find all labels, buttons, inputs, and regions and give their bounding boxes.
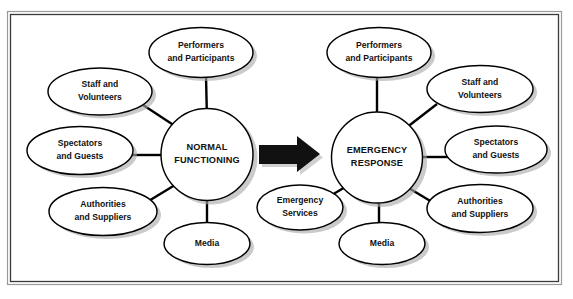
node-spectators-right-line1: Spectators — [474, 137, 519, 147]
node-emergency-services[interactable]: Emergency Services — [257, 185, 343, 230]
node-spectators-right[interactable]: Spectators and Guests — [445, 126, 547, 173]
node-performers-left[interactable]: Performers and Participants — [149, 28, 253, 78]
diagram-canvas: NORMAL FUNCTIONING Performers and Partic… — [0, 0, 573, 299]
node-media-left-line1: Media — [195, 238, 220, 248]
node-spectators-left-line2: and Guests — [57, 151, 104, 161]
node-performers-right-line1: Performers — [356, 40, 402, 50]
node-normal-functioning-line1: NORMAL — [186, 142, 227, 152]
node-authorities-right-line2: and Suppliers — [452, 209, 509, 219]
node-performers-left-line2: and Participants — [168, 53, 235, 63]
node-emergency-services-line1: Emergency — [277, 195, 324, 205]
node-media-right[interactable]: Media — [339, 223, 425, 265]
node-media-right-line1: Media — [370, 238, 395, 248]
right-arrow-icon — [259, 136, 323, 175]
node-authorities-right[interactable]: Authorities and Suppliers — [427, 185, 533, 233]
node-staff-right-line1: Staff and — [462, 77, 499, 87]
node-emergency-response-line1: EMERGENCY — [347, 145, 408, 155]
node-spectators-right-line2: and Guests — [473, 150, 520, 160]
node-authorities-left-line1: Authorities — [80, 199, 126, 209]
node-performers-left-line1: Performers — [178, 40, 224, 50]
node-performers-right[interactable]: Performers and Participants — [327, 28, 431, 78]
node-emergency-services-line2: Services — [282, 208, 318, 218]
node-authorities-left[interactable]: Authorities and Suppliers — [49, 188, 157, 236]
node-media-left[interactable]: Media — [164, 223, 250, 265]
node-emergency-response[interactable]: EMERGENCY RESPONSE — [332, 112, 423, 203]
node-staff-left-line2: Volunteers — [78, 92, 122, 102]
node-authorities-right-line1: Authorities — [457, 196, 503, 206]
node-normal-functioning-line2: FUNCTIONING — [174, 155, 239, 165]
node-staff-left[interactable]: Staff and Volunteers — [48, 68, 152, 115]
node-emergency-response-line2: RESPONSE — [351, 158, 403, 168]
node-staff-left-line1: Staff and — [82, 79, 119, 89]
connector-normal-authorities — [147, 185, 175, 202]
node-authorities-left-line2: and Suppliers — [75, 212, 132, 222]
node-spectators-left[interactable]: Spectators and Guests — [27, 127, 133, 175]
node-normal-functioning[interactable]: NORMAL FUNCTIONING — [161, 109, 253, 201]
node-staff-right[interactable]: Staff and Volunteers — [427, 66, 533, 113]
connector-emergency-staff — [406, 104, 437, 128]
diagram-figure: NORMAL FUNCTIONING Performers and Partic… — [0, 0, 573, 299]
node-performers-right-line2: and Participants — [346, 53, 413, 63]
node-staff-right-line2: Volunteers — [458, 90, 502, 100]
node-spectators-left-line1: Spectators — [58, 138, 103, 148]
